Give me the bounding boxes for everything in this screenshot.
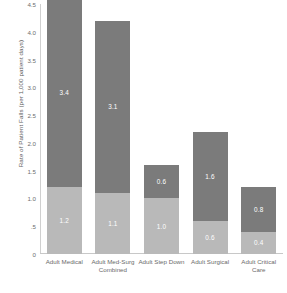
bar-segment-upper[interactable]: 3.4 (47, 0, 82, 187)
x-axis-category-label: Adult Med-Surg Combined (90, 258, 137, 275)
bar-segment-upper[interactable]: 0.6 (144, 165, 179, 198)
x-axis-category-labels: Adult MedicalAdult Med-Surg CombinedAdul… (40, 258, 283, 291)
bar-segment-value-label: 0.4 (254, 239, 263, 246)
bars-layer: 1.23.41.13.11.00.60.61.60.40.8 (40, 4, 283, 254)
y-axis-tick-label: 4.5 (27, 1, 36, 8)
bar-segment-value-label: 1.6 (205, 173, 214, 180)
bar-segment-upper[interactable]: 3.1 (95, 21, 130, 193)
y-axis-tick-label: 2.0 (27, 139, 36, 146)
x-axis-category-label: Adult Medical (41, 258, 88, 266)
bar-segment-value-label: 1.1 (108, 220, 117, 227)
bar-group[interactable]: 0.40.8 (241, 187, 276, 254)
y-axis-tick-label: 3.5 (27, 56, 36, 63)
y-axis-title: Rate of Patient Falls (per 1,000 patient… (17, 19, 24, 189)
bar-segment-value-label: 1.0 (157, 223, 166, 230)
plot-area: 4.54.03.53.02.52.01.51.0.50 1.23.41.13.1… (40, 4, 283, 254)
bar-segment-lower[interactable]: 1.1 (95, 193, 130, 254)
x-axis-category-label: Adult Critical Care (235, 258, 282, 275)
bar-segment-value-label: 3.4 (60, 89, 69, 96)
x-axis-category-label: Adult Step Down (138, 258, 185, 266)
bar-group[interactable]: 0.61.6 (193, 132, 228, 254)
x-axis-category-label: Adult Surgical (187, 258, 234, 266)
bar-segment-value-label: 0.6 (157, 178, 166, 185)
y-axis-tick-label: 4.0 (27, 28, 36, 35)
bar-group[interactable]: 1.23.4 (47, 0, 82, 254)
bar-segment-value-label: 0.6 (205, 234, 214, 241)
bar-segment-lower[interactable]: 1.0 (144, 198, 179, 254)
chart-container: Rate of Patient Falls (per 1,000 patient… (0, 0, 287, 293)
bar-segment-lower[interactable]: 1.2 (47, 187, 82, 254)
y-axis-tick-label: 3.0 (27, 84, 36, 91)
bar-segment-upper[interactable]: 1.6 (193, 132, 228, 221)
bar-segment-value-label: 0.8 (254, 206, 263, 213)
bar-segment-value-label: 3.1 (108, 103, 117, 110)
bar-segment-lower[interactable]: 0.6 (193, 221, 228, 254)
bar-segment-lower[interactable]: 0.4 (241, 232, 276, 254)
y-axis-tick-label: 1.5 (27, 167, 36, 174)
bar-group[interactable]: 1.13.1 (95, 21, 130, 254)
bar-segment-upper[interactable]: 0.8 (241, 187, 276, 231)
y-axis-tick-label: 1.0 (27, 195, 36, 202)
bar-segment-value-label: 1.2 (60, 217, 69, 224)
bar-group[interactable]: 1.00.6 (144, 165, 179, 254)
y-axis-tick-label: 0 (33, 251, 36, 258)
y-axis-tick-label: .5 (31, 223, 36, 230)
y-axis-tick-label: 2.5 (27, 112, 36, 119)
